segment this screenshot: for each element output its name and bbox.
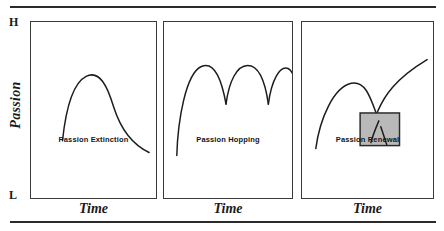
x-axis-label-panel-3: Time	[301, 201, 434, 217]
passion-extinction-plot	[31, 22, 156, 198]
panel-caption-extinction: Passion Extinction	[31, 135, 156, 144]
panel-caption-hopping: Passion Hopping	[164, 135, 292, 144]
hop-arch-2	[226, 66, 268, 105]
hop-arch-3	[268, 68, 292, 104]
panel-passion-extinction: Passion Extinction	[30, 21, 157, 199]
passion-renewal-plot	[302, 22, 433, 198]
y-axis-low-label: L	[9, 188, 17, 203]
x-axis-label-panel-2: Time	[163, 201, 293, 217]
panel-passion-renewal: Passion Renewal	[301, 21, 434, 199]
y-axis-high-label: H	[9, 15, 18, 30]
bottom-horizontal-rule	[10, 221, 436, 223]
passion-trajectories-figure: H L Passion Passion Extinction Passion H…	[0, 0, 444, 231]
panel-caption-renewal: Passion Renewal	[302, 135, 433, 144]
passion-hopping-plot	[164, 22, 292, 198]
panel-passion-hopping: Passion Hopping	[163, 21, 293, 199]
y-axis-title: Passion	[8, 70, 24, 140]
top-horizontal-rule	[10, 6, 436, 8]
x-axis-label-panel-1: Time	[30, 201, 157, 217]
